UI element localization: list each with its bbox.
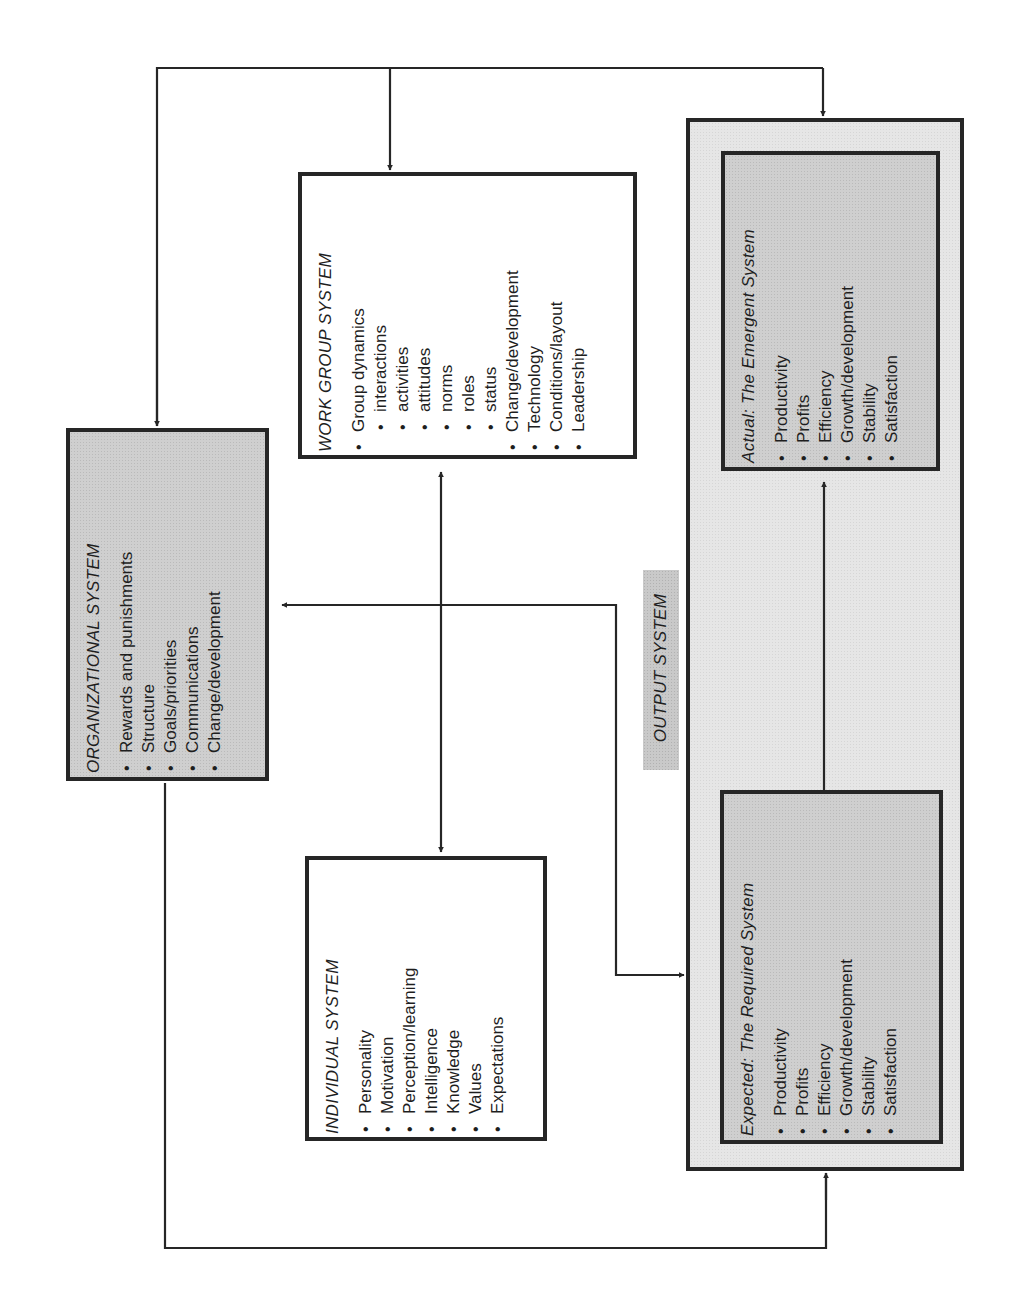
required-system-title: Expected: The Required System: [738, 806, 758, 1136]
list-subitem: interactions: [370, 182, 392, 452]
list-item: Change/development: [204, 443, 226, 773]
emergent-system-box: Actual: The Emergent System Productivity…: [721, 151, 940, 471]
list-item: Expectations: [487, 869, 509, 1134]
list-item: Conditions/layout: [546, 182, 568, 452]
list-item: Goals/priorities: [160, 443, 182, 773]
list-item: Values: [465, 869, 487, 1134]
list-item: Growth/development: [837, 163, 859, 463]
required-system-list: Productivity Profits Efficiency Growth/d…: [770, 806, 902, 1136]
list-item: Stability: [858, 806, 880, 1136]
list-item: Motivation: [377, 869, 399, 1134]
list-item: Efficiency: [815, 163, 837, 463]
output-system-label: OUTPUT SYSTEM: [643, 570, 679, 770]
list-item: Profits: [793, 163, 815, 463]
required-system-box: Expected: The Required System Productivi…: [720, 790, 943, 1144]
list-item: Personality: [355, 869, 377, 1134]
organizational-system-list: Rewards and punishments Structure Goals/…: [116, 443, 226, 773]
list-subitem: norms: [436, 182, 458, 452]
list-item: Growth/development: [836, 806, 858, 1136]
list-item: Group dynamics: [348, 182, 370, 452]
work-group-system-title: WORK GROUP SYSTEM: [316, 182, 336, 452]
list-item: Intelligence: [421, 869, 443, 1134]
work-group-system-box: WORK GROUP SYSTEM Group dynamics interac…: [298, 172, 637, 459]
list-item: Perception/learning: [399, 869, 421, 1134]
list-subitem: status: [480, 182, 502, 452]
list-item: Stability: [859, 163, 881, 463]
list-item: Profits: [792, 806, 814, 1136]
work-group-system-list: Group dynamics interactions activities a…: [348, 182, 590, 452]
list-subitem: roles: [458, 182, 480, 452]
list-item: Productivity: [770, 806, 792, 1136]
list-subitem: activities: [392, 182, 414, 452]
list-item: Satisfaction: [881, 163, 903, 463]
list-item: Structure: [138, 443, 160, 773]
organizational-system-box: ORGANIZATIONAL SYSTEM Rewards and punish…: [66, 428, 269, 781]
individual-system-box: INDIVIDUAL SYSTEM Personality Motivation…: [305, 856, 547, 1141]
list-item: Rewards and punishments: [116, 443, 138, 773]
list-item: Communications: [182, 443, 204, 773]
list-item: Change/development: [502, 182, 524, 452]
individual-system-list: Personality Motivation Perception/learni…: [355, 869, 509, 1134]
list-item: Productivity: [771, 163, 793, 463]
list-item: Efficiency: [814, 806, 836, 1136]
list-item: Satisfaction: [880, 806, 902, 1136]
list-item: Knowledge: [443, 869, 465, 1134]
list-subitem: attitudes: [414, 182, 436, 452]
emergent-system-list: Productivity Profits Efficiency Growth/d…: [771, 163, 903, 463]
organizational-system-title: ORGANIZATIONAL SYSTEM: [84, 443, 104, 773]
list-item: Leadership: [568, 182, 590, 452]
list-item: Technology: [524, 182, 546, 452]
emergent-system-title: Actual: The Emergent System: [739, 163, 759, 463]
individual-system-title: INDIVIDUAL SYSTEM: [323, 869, 343, 1134]
